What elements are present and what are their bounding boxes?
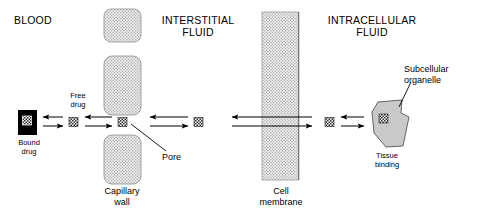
subcellular-organelle-group xyxy=(372,100,409,147)
annotation-cell-membrane: Cell membrane xyxy=(248,186,314,207)
diagram-canvas: BLOOD INTERSTITIAL FLUID INTRACELLULAR F… xyxy=(0,0,486,221)
drug-molecule-icon-interstitial xyxy=(194,118,203,127)
arrow-pair-bound-to-free xyxy=(43,117,63,126)
arrow-pair-pore-to-interstitial xyxy=(150,117,188,126)
capillary-wall-block-bottom xyxy=(104,135,141,184)
annotation-bound-drug: Bound drug xyxy=(6,139,52,157)
capillary-wall-block-middle xyxy=(104,56,141,115)
bound-drug-group xyxy=(18,110,37,135)
annotation-free-drug: Free drug xyxy=(56,92,100,110)
arrow-pair-intracellular-to-tissue xyxy=(341,117,364,126)
region-label-blood: BLOOD xyxy=(14,14,84,26)
drug-molecule-icon-pore xyxy=(118,118,127,127)
drug-molecule-icon-blood xyxy=(69,118,78,127)
annotation-pore: Pore xyxy=(162,152,202,163)
drug-molecule-icon-intracellular xyxy=(325,118,334,127)
bound-drug-molecule-icon xyxy=(23,116,32,125)
organelle-bound-drug-molecule-icon xyxy=(379,114,388,123)
leader-line-subcellular-organelle xyxy=(399,82,411,107)
capillary-wall-group xyxy=(104,9,141,184)
annotation-capillary-wall: Capillary wall xyxy=(84,186,160,207)
annotation-tissue-binding: Tissue binding xyxy=(364,152,410,170)
annotation-subcellular-organelle: Subcellular organelle xyxy=(404,64,478,85)
subcellular-organelle-shape xyxy=(372,100,409,147)
cell-membrane-group xyxy=(262,12,299,180)
arrow-pair-blood-to-pore xyxy=(85,117,112,126)
region-label-intracellular-fluid: INTRACELLULAR FLUID xyxy=(310,14,434,39)
capillary-wall-block-top xyxy=(104,9,141,42)
cell-membrane-band xyxy=(262,12,299,180)
region-label-interstitial-fluid: INTERSTITIAL FLUID xyxy=(150,14,246,39)
